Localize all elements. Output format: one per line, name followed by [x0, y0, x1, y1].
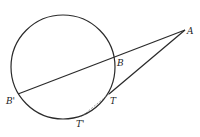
- circle: [11, 15, 115, 119]
- label-A: A: [186, 26, 194, 36]
- label-B-prime: B': [5, 96, 15, 106]
- label-B: B: [116, 58, 124, 68]
- secant-line-A-Bprime: [18, 30, 185, 94]
- label-T: T: [110, 96, 117, 106]
- geometry-diagram: A B B' T T': [0, 0, 200, 137]
- label-T-prime: T': [76, 119, 84, 129]
- dashed-line-T-Tprime: [81, 94, 109, 117]
